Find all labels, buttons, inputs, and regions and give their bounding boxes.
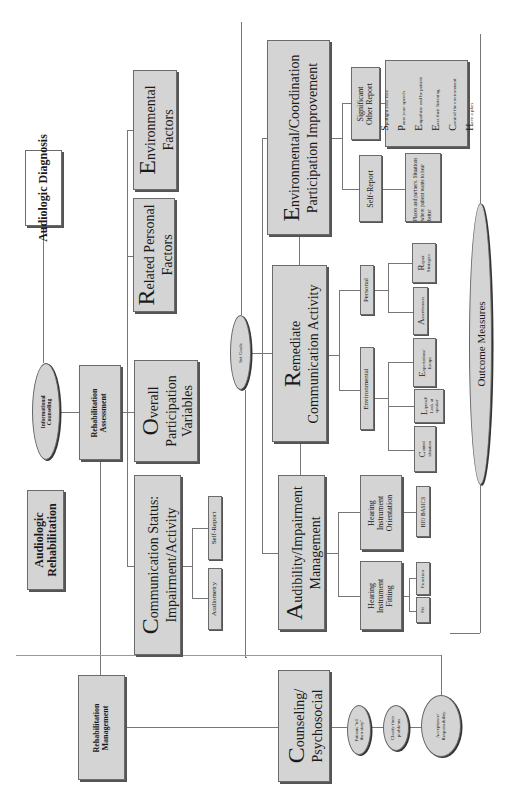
clarify-problems-node: Clarify their problems [383,705,409,751]
audibility-impairment-label: Audibility/Impairment Management [280,486,323,620]
audibility-impairment-box: Audibility/Impairment Management [278,475,325,630]
speech-strategies-list: Spotlight your face Pause your speech Em… [376,77,478,131]
hearing-instrument-fitting-box: Hearing Instrument Fitting [360,561,402,630]
connector-line [299,235,300,265]
connector-line [60,412,79,413]
fit-box: Fit [416,597,430,623]
acceptance-responsibility-label: Acceptance/ Responsibility [435,712,446,741]
audiologic-rehabilitation-label: Audiologic Rehabilitation [32,495,59,585]
initial-letter: A [280,602,306,619]
expectations-escape-box: Expectations/ Escape [413,338,436,387]
communication-status-box: Communication Status: Impairment/Activit… [134,475,181,655]
label-text: ounseling/ [292,689,307,747]
rehabilitation-management-box: Rehabilitation Management [78,675,125,780]
connector-line [338,512,360,513]
connector-line [388,406,414,407]
outcome-measures-label: Outcome Measures [474,301,486,386]
hearing-instrument-orientation-box: Hearing Instrument Orientation [360,475,402,550]
hio-basics-box: HIO BASICS [416,486,430,537]
outcome-measures-node: Outcome Measures [469,203,492,485]
fit-label: Fit [420,607,426,613]
label-text: udibility/Impairment [289,486,304,603]
label-text: Psychosocial [310,689,326,763]
initial-letter: C [136,618,162,634]
related-personal-factors-box: Related Personal Factors [133,198,175,312]
connector-line [450,633,480,634]
acceptance-responsibility-node: Acceptance/ Responsibility [421,695,461,757]
connector-line [330,727,347,728]
connector-line [241,22,242,315]
audiometry-box: Audiometry [208,568,222,630]
hearing-instrument-orientation-label: Hearing Instrument Orientation [368,494,395,530]
repair-strategies-label: Repair Strategies [416,254,431,272]
connector-line [192,528,193,598]
related-personal-factors-label: Related Personal Factors [133,204,176,305]
connector-line [181,566,192,567]
audiologic-rehabilitation-box: Audiologic Rehabilitation [27,490,64,590]
initial-letter: C [283,747,309,763]
label-text: Participation Improvement [304,54,320,221]
connector-line [250,353,272,354]
initial-letter: R [278,371,304,387]
label-text: elated Personal [142,204,157,289]
rehabilitation-assessment-box: Rehabilitation Assessment [79,365,121,460]
label-text: Factors [161,85,177,174]
connector-line [43,225,44,363]
connector-line [371,727,383,728]
label-text: Impairment/Activity [163,496,179,635]
connector-line [330,138,342,139]
audiometry-label: Audiometry [211,582,219,616]
clarify-problems-label: Clarify their problems [390,716,401,741]
environmental-small-box: Environmental [360,347,374,430]
connector-line [402,596,409,597]
environmental-factors-box: Environmental Factors [133,70,177,190]
set-goals-label: Set Goals [238,343,244,362]
connector-line [441,655,442,695]
connector-line [402,512,416,513]
label-text: nvironmental [143,85,158,160]
label-text: Communication Activity [305,284,321,423]
speech-item: Empathize and be patient [410,77,427,131]
personal-box: Personal [360,265,374,315]
label-text: emediate [287,320,302,371]
expectations-escape-label: Expectations/ Escape [417,349,432,376]
connector-line [409,611,416,612]
connector-line [16,655,441,656]
speech-item: Spotlight your face [376,77,393,131]
personal-label: Personal [363,278,371,302]
connector-line [409,578,410,611]
connector-line [388,450,414,451]
speech-item: Control the environment [444,77,461,131]
hearing-instrument-fitting-label: Hearing Instrument Fitting [368,578,395,613]
significant-other-report-label: Significant Other Report [357,83,375,125]
label-text: Factors [160,204,176,305]
self-report-box: Self-Report [208,496,222,560]
rehabilitation-management-label: Rehabilitation Management [93,693,111,763]
remediate-communication-label: Remediate Communication Activity [278,284,321,423]
label-text: Participation [164,375,180,447]
initial-letter: E [134,160,160,175]
hio-basics-label: HIO BASICS [420,496,426,526]
connector-line [127,566,134,567]
speech-item: Have a plan [461,77,478,131]
initial-letter: R [133,290,159,306]
function-box: Function [416,562,430,595]
connector-line [125,727,278,728]
connector-line [327,355,339,356]
connector-line [388,362,413,363]
patients-tell-story-node: Patients "tell their story" [347,705,371,755]
counseling-psychosocial-box: Counseling/ Psychosocial [278,670,330,782]
overall-participation-box: Overall Participation Variables [134,360,198,462]
patients-tell-story-label: Patients "tell their story" [354,719,364,742]
initial-letter: E [277,206,303,221]
connector-line [300,442,301,475]
connector-line [342,103,351,104]
env-self-report-box: Self-Report [359,155,382,222]
connector-line [480,34,481,203]
connector-line [388,263,389,313]
control-situation-box: Control situation [414,426,436,472]
connector-line [409,578,416,579]
initial-letter: O [137,418,163,435]
audiologic-diagnosis-label: Audiologic Diagnosis [37,134,50,242]
connector-line [382,189,405,190]
